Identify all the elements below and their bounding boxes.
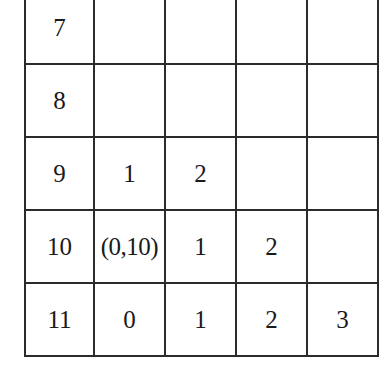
- cell-text: 2: [237, 307, 306, 332]
- empty-cell: [165, 0, 236, 64]
- grid-row: 912: [25, 137, 378, 210]
- empty-cell: [236, 0, 307, 64]
- value-cell: 2: [236, 283, 307, 356]
- row-label-cell: 11: [25, 283, 94, 356]
- empty-cell: [307, 64, 378, 137]
- value-cell: 1: [165, 210, 236, 283]
- value-cell: 0: [94, 283, 165, 356]
- grid-row: 7: [25, 0, 378, 64]
- coordinate-cell: (0,10): [94, 210, 165, 283]
- cell-text: 9: [26, 161, 93, 186]
- value-cell: 2: [165, 137, 236, 210]
- row-label-cell: 10: [25, 210, 94, 283]
- row-label-cell: 8: [25, 64, 94, 137]
- grid-body: 7891210(0,10)12110123: [25, 0, 378, 356]
- empty-cell: [236, 137, 307, 210]
- cell-text: 1: [166, 234, 235, 259]
- cell-text: 3: [308, 307, 377, 332]
- cell-text: 11: [26, 307, 93, 332]
- empty-cell: [307, 210, 378, 283]
- grid-row: 110123: [25, 283, 378, 356]
- empty-cell: [307, 0, 378, 64]
- value-cell: 1: [94, 137, 165, 210]
- row-label-cell: 7: [25, 0, 94, 64]
- cell-text: 1: [95, 161, 164, 186]
- cell-text: 2: [166, 161, 235, 186]
- cell-text: 0: [95, 307, 164, 332]
- empty-cell: [94, 0, 165, 64]
- empty-cell: [236, 64, 307, 137]
- grid-row: 8: [25, 64, 378, 137]
- empty-cell: [94, 64, 165, 137]
- cell-text: 8: [26, 88, 93, 113]
- value-cell: 3: [307, 283, 378, 356]
- cell-text: 1: [166, 307, 235, 332]
- value-cell: 2: [236, 210, 307, 283]
- row-label-cell: 9: [25, 137, 94, 210]
- cell-text: 10: [26, 234, 93, 259]
- grid-diagram: 7891210(0,10)12110123: [0, 0, 384, 376]
- value-cell: 1: [165, 283, 236, 356]
- cell-text: 7: [26, 15, 93, 40]
- grid-row: 10(0,10)12: [25, 210, 378, 283]
- cell-text: (0,10): [95, 234, 164, 259]
- cell-text: 2: [237, 234, 306, 259]
- empty-cell: [307, 137, 378, 210]
- grid-table: 7891210(0,10)12110123: [24, 0, 379, 357]
- empty-cell: [165, 64, 236, 137]
